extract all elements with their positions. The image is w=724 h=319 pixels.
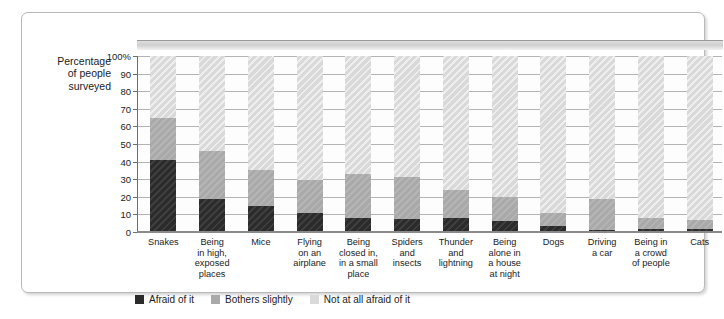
bar-segment-none[interactable]	[150, 56, 176, 118]
x-axis-label: Beingalone ina houseat night	[477, 237, 533, 279]
bar-segment-afraid[interactable]	[199, 199, 225, 232]
bar-segment-slight[interactable]	[589, 199, 615, 230]
bar-segment-slight[interactable]	[540, 213, 566, 226]
bar-segment-none[interactable]	[443, 56, 469, 190]
x-axis-label: Spidersandinsects	[379, 237, 435, 269]
legend: Afraid of itBothers slightlyNot at all a…	[135, 294, 410, 305]
bar-stack[interactable]	[150, 56, 176, 232]
bar-stack[interactable]	[492, 56, 518, 232]
bar-segment-slight[interactable]	[297, 180, 323, 213]
legend-label: Not at all afraid of it	[324, 294, 410, 305]
x-axis-label-line: closed in,	[330, 248, 386, 259]
y-axis-tick-mark	[133, 74, 137, 75]
legend-swatch-afraid	[135, 295, 144, 304]
y-axis-tick-label: 60	[91, 122, 131, 131]
y-axis-tick-label: 20	[91, 193, 131, 202]
y-axis-tick-mark	[133, 109, 137, 110]
bar-segment-slight[interactable]	[248, 170, 274, 206]
chart-card: Percentage of people surveyed 100%908070…	[21, 12, 705, 293]
x-axis-label-line: Being	[330, 237, 386, 248]
x-axis-label-line: Flying	[282, 237, 338, 248]
bar-stack[interactable]	[199, 56, 225, 232]
y-axis-tick-mark	[133, 144, 137, 145]
bar-stack[interactable]	[248, 56, 274, 232]
bar-stack[interactable]	[589, 56, 615, 232]
bar-segment-slight[interactable]	[638, 218, 664, 229]
bar-segment-none[interactable]	[297, 56, 323, 180]
x-axis-label: Cats	[672, 237, 724, 248]
x-axis-label: Snakes	[135, 237, 191, 248]
bar-stack[interactable]	[638, 56, 664, 232]
plot-area: 100%9080706050403020100	[137, 56, 722, 232]
x-axis-label-line: exposed	[184, 258, 240, 269]
x-axis-label-line: and	[428, 248, 484, 259]
bar-segment-slight[interactable]	[492, 197, 518, 222]
y-axis-tick-label: 30	[91, 175, 131, 184]
bar-segment-slight[interactable]	[687, 220, 713, 230]
x-axis-label-line: a crowd	[623, 248, 679, 259]
bar-segment-none[interactable]	[345, 56, 371, 174]
y-axis-tick-label: 80	[91, 87, 131, 96]
bar-stack[interactable]	[297, 56, 323, 232]
y-axis-tick-label: 10	[91, 210, 131, 219]
x-axis-label-line: a car	[574, 248, 630, 259]
bar-segment-afraid[interactable]	[345, 218, 371, 232]
bar-segment-slight[interactable]	[443, 190, 469, 218]
bar-segment-slight[interactable]	[150, 118, 176, 160]
x-axis-label-line: Cats	[672, 237, 724, 248]
x-axis-label-line: on an	[282, 248, 338, 259]
y-axis-tick-mark	[133, 91, 137, 92]
x-axis-label-line: Being	[477, 237, 533, 248]
bar-stack[interactable]	[687, 56, 713, 232]
bar-segment-afraid[interactable]	[297, 213, 323, 232]
x-axis-label-line: Dogs	[525, 237, 581, 248]
y-axis-tick-label: 40	[91, 158, 131, 167]
x-axis-label-line: Being	[184, 237, 240, 248]
bar-segment-afraid[interactable]	[150, 160, 176, 232]
bar-stack[interactable]	[345, 56, 371, 232]
x-axis-label: Dogs	[525, 237, 581, 248]
x-axis-label-line: place	[330, 269, 386, 280]
bar-segment-none[interactable]	[687, 56, 713, 220]
y-axis-tick-mark	[133, 162, 137, 163]
x-axis-label-line: in a small	[330, 258, 386, 269]
y-axis-tick-mark	[133, 179, 137, 180]
y-axis-tick-mark	[133, 214, 137, 215]
x-axis-label: Being ina crowdof people	[623, 237, 679, 269]
bar-stack[interactable]	[540, 56, 566, 232]
x-axis-label-line: Mice	[233, 237, 289, 248]
bar-segment-none[interactable]	[394, 56, 420, 177]
bar-series-layer	[137, 56, 722, 232]
plot-top-cap	[137, 40, 723, 50]
legend-item-slight: Bothers slightly	[211, 294, 293, 305]
y-axis-tick-mark	[133, 197, 137, 198]
x-axis-label: Beingin high,exposedplaces	[184, 237, 240, 279]
bar-segment-slight[interactable]	[394, 177, 420, 218]
bar-stack[interactable]	[443, 56, 469, 232]
bar-segment-none[interactable]	[638, 56, 664, 218]
bar-segment-afraid[interactable]	[443, 218, 469, 232]
bar-segment-afraid[interactable]	[248, 206, 274, 232]
bar-stack[interactable]	[394, 56, 420, 232]
y-axis-tick-mark	[133, 126, 137, 127]
x-axis-line	[137, 231, 722, 233]
x-axis-label-line: Driving	[574, 237, 630, 248]
x-axis-label-line: in high,	[184, 248, 240, 259]
bar-segment-none[interactable]	[492, 56, 518, 197]
x-axis-label: Beingclosed in,in a smallplace	[330, 237, 386, 279]
x-axis-label-line: a house	[477, 258, 533, 269]
x-axis-label-line: alone in	[477, 248, 533, 259]
bar-segment-none[interactable]	[248, 56, 274, 170]
bar-segment-none[interactable]	[540, 56, 566, 213]
bar-segment-slight[interactable]	[199, 151, 225, 199]
x-axis-label-line: Thunder	[428, 237, 484, 248]
x-axis-label-line: Snakes	[135, 237, 191, 248]
legend-label: Bothers slightly	[225, 294, 293, 305]
y-axis-tick-mark	[133, 232, 137, 233]
legend-item-afraid: Afraid of it	[135, 294, 194, 305]
bar-segment-none[interactable]	[589, 56, 615, 199]
bar-segment-none[interactable]	[199, 56, 225, 151]
bar-segment-slight[interactable]	[345, 174, 371, 218]
x-axis-label-line: Spiders	[379, 237, 435, 248]
x-axis-label-line: at night	[477, 269, 533, 280]
